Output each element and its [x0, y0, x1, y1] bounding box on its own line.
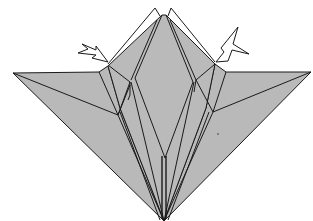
origami-diagram	[0, 0, 313, 221]
paper-speck	[217, 133, 219, 135]
left-fold-arrow-icon	[78, 44, 108, 62]
right-fold-arrow-icon	[216, 27, 249, 62]
